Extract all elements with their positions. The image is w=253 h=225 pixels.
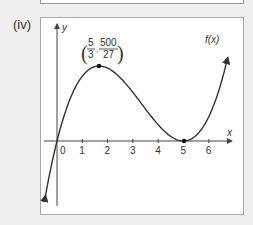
x-axis-label: x: [226, 127, 233, 138]
svg-text:5: 5: [88, 37, 94, 48]
x-tick-label: 0: [60, 145, 66, 156]
max-point: [97, 64, 101, 68]
svg-text:500: 500: [100, 37, 117, 48]
y-axis-label: y: [61, 22, 68, 33]
x-ticks: 0123456: [60, 139, 212, 156]
x-tick-label: 4: [155, 145, 161, 156]
root-point: [182, 139, 186, 143]
svg-text:27: 27: [103, 49, 115, 60]
x-tick-label: 3: [130, 145, 136, 156]
max-point-label: ( 5 3 , 500 27 ): [81, 37, 124, 65]
function-label: f(x): [205, 34, 219, 45]
svg-text:3: 3: [88, 49, 94, 60]
x-tick-label: 5: [181, 145, 187, 156]
svg-text:,: ,: [96, 45, 98, 54]
x-tick-label: 2: [105, 145, 111, 156]
svg-text:): ): [117, 42, 124, 65]
function-graph: 0123456 x y f(x) ( 5 3 , 500 27 ): [0, 0, 253, 225]
function-curve: [46, 57, 228, 195]
x-tick-label: 6: [206, 145, 212, 156]
svg-text:(: (: [81, 42, 88, 65]
x-tick-label: 1: [79, 145, 85, 156]
